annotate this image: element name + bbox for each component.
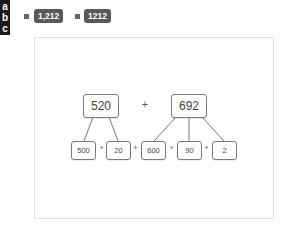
place-value-box-90: 90 — [177, 141, 202, 160]
place-value-box-20: 20 — [106, 141, 131, 160]
connector-lines — [0, 0, 288, 235]
plus-operator: + — [138, 98, 152, 110]
place-value-box-600: 600 — [141, 141, 166, 160]
plus-operator: + — [97, 144, 106, 151]
addend-box-692: 692 — [171, 94, 207, 118]
addend-box-520: 520 — [83, 94, 119, 118]
plus-operator: + — [167, 144, 176, 151]
place-value-box-500: 500 — [71, 141, 96, 160]
place-value-box-2: 2 — [212, 141, 237, 160]
plus-operator: + — [202, 144, 211, 151]
plus-operator: + — [131, 144, 140, 151]
